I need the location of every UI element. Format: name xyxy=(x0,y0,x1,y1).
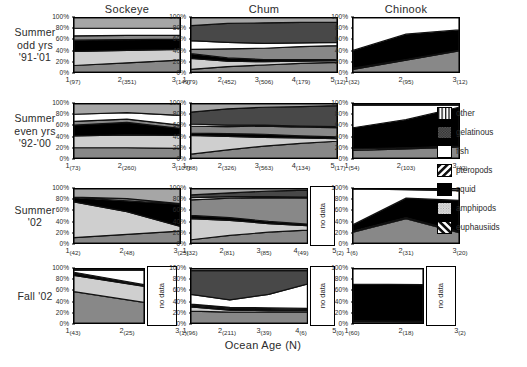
y-tick-label: 80% xyxy=(173,196,186,203)
y-tick-mark xyxy=(189,188,192,189)
stacked-area-figure: Sockeye Chum Chinook Summerodd yrs'91-'0… xyxy=(0,0,527,367)
y-axis: 100%80%60%40%20%0% xyxy=(325,268,351,324)
sample-size-value: (17) xyxy=(335,164,346,171)
ocean-age-value: 2 xyxy=(398,75,402,84)
sample-size-value: (96) xyxy=(187,329,198,336)
y-tick-label: 100% xyxy=(52,265,69,272)
row-label-line: Summer xyxy=(2,26,68,39)
y-tick-mark xyxy=(72,103,75,104)
y-tick-label: 80% xyxy=(335,25,348,32)
y-tick-mark xyxy=(189,210,192,211)
x-tick-label: 3(20) xyxy=(452,246,467,255)
ocean-age-value: 4 xyxy=(295,326,299,335)
y-tick-label: 40% xyxy=(173,298,186,305)
sample-size-value: (149) xyxy=(176,78,190,85)
x-axis-labels: 1(32)2(81)3(85)4(49)5(2) xyxy=(0,246,527,260)
x-tick-label: 3(563) xyxy=(255,161,274,170)
y-tick-label: 20% xyxy=(56,230,69,237)
sample-size-value: (351) xyxy=(122,78,136,85)
y-tick-label: 20% xyxy=(56,310,69,317)
x-tick-label: 3(506) xyxy=(255,75,274,84)
y-tick-mark xyxy=(72,61,75,62)
y-tick-mark xyxy=(189,221,192,222)
y-tick-mark xyxy=(189,125,192,126)
y-tick-label: 40% xyxy=(173,47,186,54)
y-tick-label: 60% xyxy=(173,36,186,43)
y-tick-mark xyxy=(189,50,192,51)
ocean-age-value: 1 xyxy=(344,326,348,335)
y-tick-mark xyxy=(351,324,354,325)
y-tick-mark xyxy=(351,136,354,137)
plot-area xyxy=(190,188,308,244)
plot-area xyxy=(190,17,338,73)
sample-size-value: (48) xyxy=(124,249,135,256)
x-tick-label: 2(103) xyxy=(397,161,416,170)
y-tick-label: 60% xyxy=(335,122,348,129)
legend-label: squid xyxy=(456,185,476,194)
sample-size-value: (42) xyxy=(70,249,81,256)
y-tick-mark xyxy=(189,199,192,200)
y-tick-mark xyxy=(72,147,75,148)
y-tick-label: 100% xyxy=(169,185,186,192)
legend-label: other xyxy=(456,109,475,118)
y-tick-label: 80% xyxy=(173,111,186,118)
ocean-age-value: 3 xyxy=(256,246,260,255)
plot-area xyxy=(73,103,181,159)
ocean-age-value: 1 xyxy=(65,326,69,335)
y-tick-mark xyxy=(189,147,192,148)
y-tick-label: 0% xyxy=(338,241,348,248)
y-tick-mark xyxy=(351,279,354,280)
x-axis-labels: 1(42)2(48)3(25) xyxy=(0,246,527,260)
ocean-age-value: 3 xyxy=(172,161,176,170)
ocean-age-value: 4 xyxy=(293,246,297,255)
ocean-age-value: 1 xyxy=(182,75,186,84)
y-tick-mark xyxy=(72,210,75,211)
x-axis-labels: 1(60)2(18)3(2) xyxy=(0,326,527,340)
x-axis-labels: 1(97)2(351)3(149) xyxy=(0,75,527,89)
y-tick-mark xyxy=(351,50,354,51)
ocean-age-value: 1 xyxy=(182,326,186,335)
y-tick-label: 40% xyxy=(335,218,348,225)
x-tick-label: 1(79) xyxy=(182,75,197,84)
legend-item-pteropods: pteropods xyxy=(437,161,527,180)
y-tick-label: 60% xyxy=(173,287,186,294)
y-tick-label: 100% xyxy=(169,265,186,272)
y-tick-mark xyxy=(72,199,75,200)
x-tick-label: 5(12) xyxy=(330,75,345,84)
sample-size-value: (18) xyxy=(403,329,414,336)
y-tick-label: 0% xyxy=(176,70,186,77)
column-title-sockeye: Sockeye xyxy=(73,3,181,15)
x-tick-label: 3(39) xyxy=(256,326,271,335)
y-tick-mark xyxy=(351,232,354,233)
y-axis: 100%80%60%40%20%0% xyxy=(325,103,351,159)
ocean-age-value: 1 xyxy=(65,161,69,170)
sample-size-value: (12) xyxy=(457,78,468,85)
y-tick-label: 80% xyxy=(56,276,69,283)
no-data-label: no data xyxy=(436,283,445,308)
y-tick-mark xyxy=(72,125,75,126)
no-data-box: no data xyxy=(310,186,334,246)
x-tick-label: 1(43) xyxy=(65,326,80,335)
y-tick-label: 0% xyxy=(59,241,69,248)
y-tick-label: 80% xyxy=(173,276,186,283)
x-tick-label: 1(97) xyxy=(65,75,80,84)
y-tick-label: 100% xyxy=(331,100,348,107)
stacked-area-series xyxy=(191,18,337,72)
stacked-area-series xyxy=(191,189,307,243)
y-tick-mark xyxy=(351,188,354,189)
ocean-age-value: 4 xyxy=(292,161,296,170)
y-axis: 100%80%60%40%20%0% xyxy=(325,17,351,73)
y-tick-mark xyxy=(72,279,75,280)
row-label-line: '92-'00 xyxy=(2,137,68,150)
sample-size-value: (179) xyxy=(296,78,310,85)
y-tick-label: 0% xyxy=(176,156,186,163)
y-axis: 100%80%60%40%20%0% xyxy=(163,17,189,73)
x-tick-label: 1(42) xyxy=(65,246,80,255)
x-axis-labels: 1(32)2(95)3(12) xyxy=(0,75,527,89)
legend-item-fish: fish xyxy=(437,142,527,161)
ocean-age-value: 3 xyxy=(172,75,176,84)
y-tick-mark xyxy=(351,312,354,313)
y-tick-mark xyxy=(72,301,75,302)
x-tick-label: 3(149) xyxy=(172,75,191,84)
plot-area xyxy=(73,268,145,324)
